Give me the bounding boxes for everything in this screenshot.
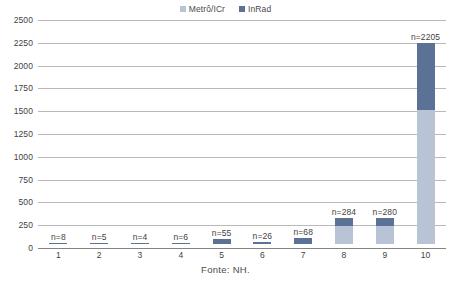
bar-group[interactable]: n=8: [38, 16, 79, 244]
bar-stack[interactable]: n=4: [131, 243, 149, 245]
x-tick-label: 5: [201, 250, 242, 260]
x-tick-label: 2: [79, 250, 120, 260]
bar-value-label: n=5: [92, 232, 107, 242]
bar-segment-metro-icr[interactable]: [335, 226, 353, 244]
source-note: Fonte: NH.: [0, 264, 451, 275]
x-tick-label: 9: [364, 250, 405, 260]
y-tick-label: 750: [19, 175, 33, 185]
y-tick-label: 1750: [14, 83, 33, 93]
plot-area: n=8n=5n=4n=6n=55n=26n=68n=284n=280n=2205: [38, 16, 446, 248]
legend-item-inrad: InRad: [239, 5, 271, 14]
bar-stack[interactable]: n=55: [213, 239, 231, 244]
bar-segment-inrad[interactable]: [49, 243, 67, 245]
bar-segment-inrad[interactable]: [131, 243, 149, 245]
bar-value-label: n=8: [51, 232, 66, 242]
bar-value-label: n=68: [293, 227, 313, 237]
bar-group[interactable]: n=68: [283, 16, 324, 244]
bar-segment-metro-icr[interactable]: [417, 110, 435, 244]
bar-value-label: n=6: [173, 232, 188, 242]
bar-stack[interactable]: n=280: [376, 218, 394, 244]
bar-group[interactable]: n=5: [79, 16, 120, 244]
x-tick-label: 1: [38, 250, 79, 260]
x-tick-label: 3: [120, 250, 161, 260]
y-axis: 25002250200017501500125010007505002500: [0, 16, 36, 248]
bar-group[interactable]: n=26: [242, 16, 283, 244]
bars-layer: n=8n=5n=4n=6n=55n=26n=68n=284n=280n=2205: [38, 16, 446, 248]
bar-segment-inrad[interactable]: [253, 242, 271, 244]
y-tick-label: 0: [28, 243, 33, 253]
bar-value-label: n=4: [133, 232, 148, 242]
bar-group[interactable]: n=4: [120, 16, 161, 244]
bar-stack[interactable]: n=68: [294, 238, 312, 244]
bar-group[interactable]: n=55: [201, 16, 242, 244]
legend-item-metro-icr: Metrô/ICr: [180, 5, 225, 14]
bar-segment-inrad[interactable]: [172, 243, 190, 245]
bar-segment-inrad[interactable]: [376, 218, 394, 225]
x-tick-label: 10: [405, 250, 446, 260]
plot-wrapper: 25002250200017501500125010007505002500 n…: [0, 16, 451, 248]
bar-segment-inrad[interactable]: [335, 218, 353, 226]
bar-group[interactable]: n=2205: [405, 16, 446, 244]
legend-swatch-metro-icr: [180, 6, 186, 12]
chart-container: Metrô/ICr InRad 250022502000175015001250…: [0, 0, 451, 281]
y-tick-label: 250: [19, 220, 33, 230]
y-tick-label: 2000: [14, 61, 33, 71]
legend-label-metro-icr: Metrô/ICr: [189, 5, 225, 14]
x-tick-label: 8: [324, 250, 365, 260]
bar-stack[interactable]: n=26: [253, 242, 271, 244]
bar-stack[interactable]: n=2205: [417, 43, 435, 244]
bar-value-label: n=284: [332, 207, 356, 217]
y-tick-label: 1000: [14, 152, 33, 162]
bar-stack[interactable]: n=284: [335, 218, 353, 244]
bar-group[interactable]: n=280: [364, 16, 405, 244]
bar-segment-metro-icr[interactable]: [376, 226, 394, 244]
legend-label-inrad: InRad: [248, 5, 271, 14]
x-axis: 12345678910: [38, 250, 446, 264]
y-tick-label: 1500: [14, 106, 33, 116]
y-tick-label: 500: [19, 197, 33, 207]
gridline: [38, 248, 446, 249]
legend-swatch-inrad: [239, 6, 245, 12]
bar-stack[interactable]: n=6: [172, 243, 190, 245]
bar-segment-inrad[interactable]: [417, 43, 435, 110]
bar-value-label: n=26: [253, 231, 273, 241]
bar-group[interactable]: n=6: [160, 16, 201, 244]
bar-value-label: n=55: [212, 228, 232, 238]
bar-value-label: n=280: [373, 207, 397, 217]
y-tick-label: 2500: [14, 15, 33, 25]
bar-stack[interactable]: n=5: [90, 243, 108, 245]
bar-segment-inrad[interactable]: [294, 238, 312, 244]
bar-stack[interactable]: n=8: [49, 243, 67, 245]
bar-value-label: n=2205: [411, 32, 440, 42]
x-tick-label: 4: [160, 250, 201, 260]
bar-segment-inrad[interactable]: [213, 239, 231, 244]
y-tick-label: 1250: [14, 129, 33, 139]
x-tick-label: 6: [242, 250, 283, 260]
chart-legend: Metrô/ICr InRad: [0, 2, 451, 16]
x-tick-label: 7: [283, 250, 324, 260]
bar-segment-inrad[interactable]: [90, 243, 108, 245]
bar-group[interactable]: n=284: [324, 16, 365, 244]
y-tick-label: 2250: [14, 38, 33, 48]
